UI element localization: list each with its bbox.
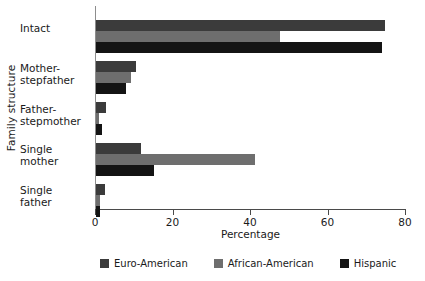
- y-axis-title-text: Family structure: [5, 64, 17, 150]
- category-label-intact: Intact: [20, 22, 90, 34]
- category-label-line2: stepfather: [20, 74, 90, 86]
- bar: [96, 154, 255, 165]
- legend-item-euro-american: Euro-American: [100, 258, 188, 269]
- bar: [96, 113, 99, 124]
- bar: [96, 195, 100, 206]
- category-axis-labels: Intact Mother- stepfather Father- stepmo…: [20, 6, 90, 209]
- plot-area: 020406080: [95, 6, 405, 209]
- category-label-line1: Intact: [20, 22, 50, 34]
- x-axis-tick: [405, 210, 406, 215]
- bar: [96, 83, 126, 94]
- legend-label: Hispanic: [354, 258, 397, 269]
- category-label-line1: Father-: [20, 103, 56, 115]
- category-label-line2: mother: [20, 155, 90, 167]
- legend-item-hispanic: Hispanic: [340, 258, 397, 269]
- category-label-line1: Single: [20, 184, 52, 196]
- category-label-single-father: Single father: [20, 184, 90, 208]
- bar: [96, 124, 102, 135]
- legend-swatch-icon: [100, 259, 109, 268]
- y-axis-title: Family structure: [2, 0, 20, 215]
- bar: [96, 31, 280, 42]
- x-axis-tick: [250, 210, 251, 215]
- x-axis-tick-label: 80: [385, 216, 425, 228]
- bar: [96, 143, 141, 154]
- bar: [96, 42, 382, 53]
- category-label-line1: Single: [20, 143, 52, 155]
- chart-legend: Euro-American African-American Hispanic: [100, 258, 410, 269]
- category-label-line2: father: [20, 196, 90, 208]
- x-axis-tick: [95, 210, 96, 215]
- x-axis-tick-label: 60: [308, 216, 348, 228]
- category-label-father-stepmother: Father- stepmother: [20, 103, 90, 127]
- category-label-single-mother: Single mother: [20, 143, 90, 167]
- bar-chart: Family structure Intact Mother- stepfath…: [0, 0, 425, 281]
- legend-swatch-icon: [340, 259, 349, 268]
- legend-label: Euro-American: [114, 258, 188, 269]
- x-axis-title: Percentage: [95, 228, 406, 240]
- bar: [96, 61, 136, 72]
- legend-label: African-American: [228, 258, 314, 269]
- bar: [96, 72, 131, 83]
- bar: [96, 20, 385, 31]
- bar: [96, 165, 154, 176]
- x-axis-tick: [328, 210, 329, 215]
- bar: [96, 184, 105, 195]
- category-label-mother-stepfather: Mother- stepfather: [20, 62, 90, 86]
- bar: [96, 102, 106, 113]
- x-axis-tick-label: 0: [75, 216, 115, 228]
- category-label-line2: stepmother: [20, 115, 90, 127]
- legend-swatch-icon: [214, 259, 223, 268]
- x-axis-tick-label: 40: [230, 216, 270, 228]
- x-axis-tick-label: 20: [153, 216, 193, 228]
- x-axis-tick: [173, 210, 174, 215]
- category-label-line1: Mother-: [20, 62, 60, 74]
- legend-item-african-american: African-American: [214, 258, 314, 269]
